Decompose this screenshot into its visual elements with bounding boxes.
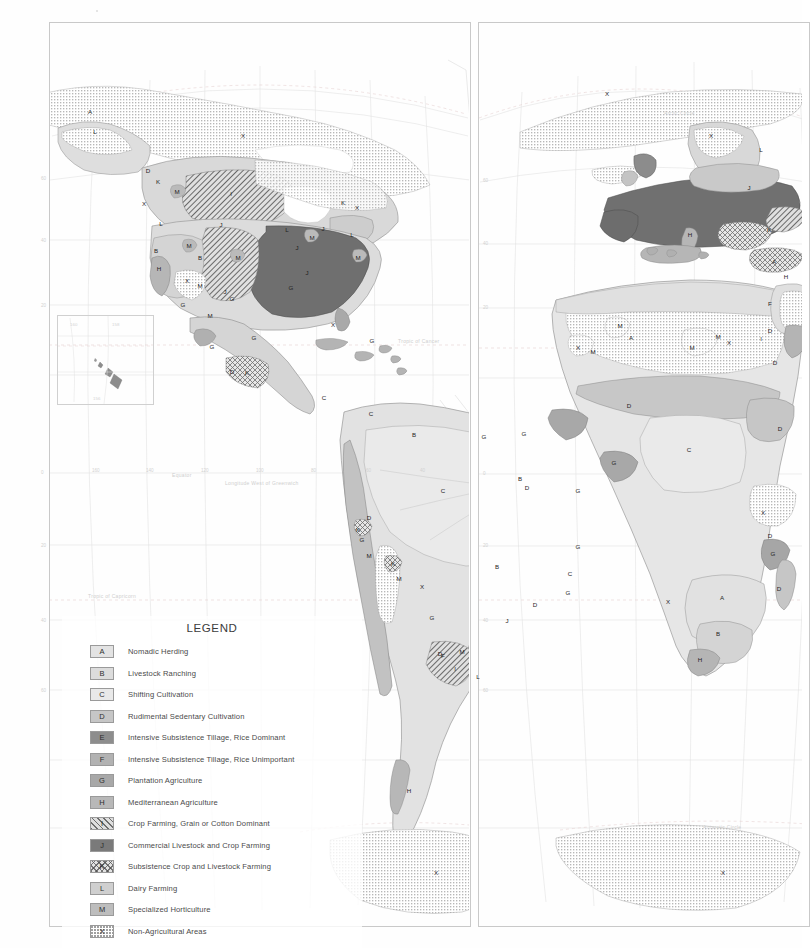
- tick-lat-w-20s: 20: [41, 543, 46, 548]
- legend-item-k[interactable]: KSubsistence Crop and Livestock Farming: [68, 856, 356, 878]
- inset-tick-160: 160: [70, 322, 77, 327]
- legend-item-c[interactable]: CShifting Cultivation: [68, 684, 356, 706]
- legend-item-label: Dairy Farming: [128, 884, 177, 893]
- legend-swatch-x: X: [90, 925, 114, 938]
- tick-lat-e-40n: 40: [483, 241, 488, 246]
- legend-swatch-letter: X: [99, 928, 104, 936]
- legend-swatch-a: A: [90, 645, 114, 658]
- legend-item-label: Nomadic Herding: [128, 647, 188, 656]
- legend-item-label: Intensive Subsistence Tillage, Rice Unim…: [128, 755, 294, 764]
- map-panel-eastern-hemisphere: [478, 22, 810, 927]
- legend-item-label: Mediterranean Agriculture: [128, 798, 218, 807]
- legend-swatch-letter: J: [100, 842, 104, 850]
- map-legend: LEGEND ANomadic HerdingBLivestock Ranchi…: [62, 616, 362, 948]
- legend-item-l[interactable]: LDairy Farming: [68, 878, 356, 900]
- legend-swatch-k: K: [90, 860, 114, 873]
- tick-lat-e-40s: 40: [483, 618, 488, 623]
- tick-lat-e-0: 0: [483, 471, 486, 476]
- legend-rows: ANomadic HerdingBLivestock RanchingCShif…: [68, 641, 356, 942]
- tick-lat-w-0: 0: [41, 470, 44, 475]
- legend-swatch-b: B: [90, 667, 114, 680]
- tick-lat-e-20n: 20: [483, 305, 488, 310]
- legend-swatch-letter: B: [99, 670, 104, 678]
- legend-item-x[interactable]: XNon-Agricultural Areas: [68, 921, 356, 943]
- tick-lat-w-40s: 40: [41, 618, 46, 623]
- inset-map-hawaii: [57, 315, 154, 405]
- legend-swatch-c: C: [90, 688, 114, 701]
- legend-item-g[interactable]: GPlantation Agriculture: [68, 770, 356, 792]
- legend-item-e[interactable]: EIntensive Subsistence Tillage, Rice Dom…: [68, 727, 356, 749]
- inset-tick-156: 156: [93, 396, 100, 401]
- legend-swatch-j: J: [90, 839, 114, 852]
- legend-swatch-letter: M: [99, 906, 105, 914]
- stray-mark: [96, 10, 98, 12]
- tick-lat-w-20n: 20: [41, 303, 46, 308]
- legend-item-b[interactable]: BLivestock Ranching: [68, 663, 356, 685]
- legend-item-i[interactable]: ICrop Farming, Grain or Cotton Dominant: [68, 813, 356, 835]
- tick-lat-e-60s: 60: [483, 688, 488, 693]
- legend-item-label: Shifting Cultivation: [128, 690, 193, 699]
- legend-swatch-letter: F: [100, 756, 105, 764]
- tick-lon-160: 160: [92, 468, 100, 473]
- legend-item-a[interactable]: ANomadic Herding: [68, 641, 356, 663]
- legend-swatch-m: M: [90, 903, 114, 916]
- tick-lon-100: 100: [256, 468, 264, 473]
- legend-item-label: Crop Farming, Grain or Cotton Dominant: [128, 819, 270, 828]
- tick-lat-w-60n: 60: [41, 176, 46, 181]
- inset-tick-158: 158: [112, 322, 119, 327]
- legend-swatch-d: D: [90, 710, 114, 723]
- legend-swatch-letter: A: [99, 648, 104, 656]
- legend-item-label: Livestock Ranching: [128, 669, 196, 678]
- legend-item-f[interactable]: FIntensive Subsistence Tillage, Rice Uni…: [68, 749, 356, 771]
- legend-item-label: Rudimental Sedentary Cultivation: [128, 712, 245, 721]
- legend-item-label: Intensive Subsistence Tillage, Rice Domi…: [128, 733, 285, 742]
- legend-item-d[interactable]: DRudimental Sedentary Cultivation: [68, 706, 356, 728]
- tick-lon-140: 140: [146, 468, 154, 473]
- tick-lon-40: 40: [420, 468, 425, 473]
- legend-swatch-letter: L: [100, 885, 104, 893]
- legend-swatch-letter: C: [99, 691, 104, 699]
- legend-item-label: Non-Agricultural Areas: [128, 927, 207, 936]
- legend-item-j[interactable]: JCommercial Livestock and Crop Farming: [68, 835, 356, 857]
- legend-swatch-g: G: [90, 774, 114, 787]
- legend-swatch-letter: K: [99, 863, 104, 871]
- legend-swatch-letter: G: [99, 777, 105, 785]
- legend-item-m[interactable]: MSpecialized Horticulture: [68, 899, 356, 921]
- legend-swatch-h: H: [90, 796, 114, 809]
- tick-lat-w-40n: 40: [41, 238, 46, 243]
- legend-swatch-l: L: [90, 882, 114, 895]
- tick-lat-e-60n: 60: [483, 178, 488, 183]
- legend-swatch-i: I: [90, 817, 114, 830]
- legend-item-label: Commercial Livestock and Crop Farming: [128, 841, 270, 850]
- tick-lat-w-60s: 60: [41, 688, 46, 693]
- legend-title: LEGEND: [68, 622, 356, 634]
- legend-swatch-e: E: [90, 731, 114, 744]
- tick-lon-60: 60: [366, 468, 371, 473]
- legend-swatch-letter: E: [99, 734, 104, 742]
- legend-swatch-letter: H: [99, 799, 104, 807]
- tick-lat-e-20s: 20: [483, 543, 488, 548]
- legend-item-label: Specialized Horticulture: [128, 905, 211, 914]
- legend-swatch-letter: I: [101, 820, 103, 828]
- legend-item-h[interactable]: HMediterranean Agriculture: [68, 792, 356, 814]
- tick-lon-120: 120: [201, 468, 209, 473]
- legend-item-label: Subsistence Crop and Livestock Farming: [128, 862, 271, 871]
- legend-item-label: Plantation Agriculture: [128, 776, 202, 785]
- legend-swatch-f: F: [90, 753, 114, 766]
- legend-swatch-letter: D: [99, 713, 104, 721]
- tick-lon-80: 80: [311, 468, 316, 473]
